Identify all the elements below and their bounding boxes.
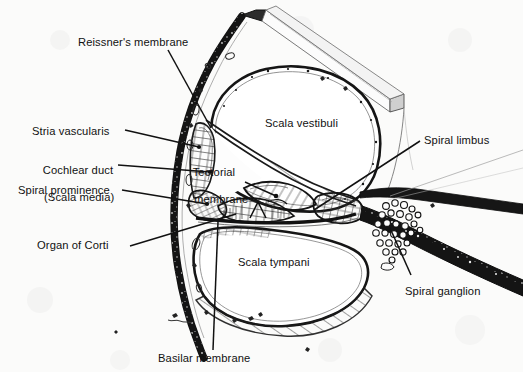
figure-canvas: Reissner's membrane Stria vascularis Coc…	[0, 0, 523, 372]
label-spiral-ganglion: Spiral ganglion	[405, 285, 481, 298]
label-organ-of-corti: Organ of Corti	[37, 239, 109, 252]
label-scala-tympani: Scala tympani	[238, 256, 310, 269]
scala-tympani-chamber	[194, 227, 372, 336]
label-spiral-limbus: Spiral limbus	[424, 134, 489, 147]
label-tectorial-membrane-line2: membrane	[180, 193, 248, 207]
label-scala-vestibuli: Scala vestibuli	[265, 117, 338, 130]
label-tectorial-membrane-line1: Tectorial	[193, 166, 236, 178]
ganglion-vessel-lumen	[381, 263, 394, 270]
label-tectorial-membrane: Tectorial membrane	[180, 152, 248, 233]
label-reissners-membrane: Reissner's membrane	[78, 36, 188, 49]
label-stria-vascularis: Stria vascularis	[32, 125, 109, 138]
label-basilar-membrane: Basilar membrane	[158, 352, 250, 365]
label-cochlear-duct-line1: Cochlear duct	[43, 164, 113, 176]
label-spiral-prominence: Spiral prominence	[18, 184, 110, 197]
